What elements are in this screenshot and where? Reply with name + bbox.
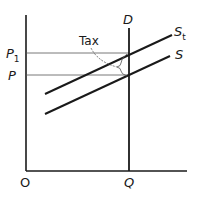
supply-with-tax-subscript: t [182,32,186,42]
supply-demand-tax-diagram: Tax D St S P1 P O Q [0,0,197,197]
supply-label: S [175,47,183,62]
p-label: P [8,68,16,83]
tax-leader-line [91,48,117,67]
diagram-svg: Tax D St S P1 P O Q [0,0,197,197]
demand-label: D [123,12,133,27]
p1-label-main: P [6,46,14,61]
tax-label: Tax [78,34,99,48]
p1-subscript: 1 [14,54,20,64]
quantity-label: Q [124,175,134,190]
origin-label: O [20,175,30,190]
p1-label: P1 [6,46,20,64]
supply-with-tax-label-main: S [174,24,182,39]
supply-with-tax-label: St [174,24,186,42]
